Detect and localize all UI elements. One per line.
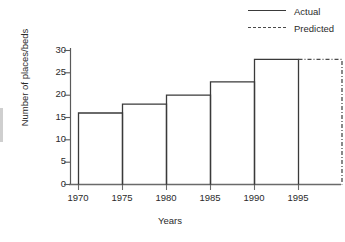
- bar-1990: [255, 59, 299, 184]
- x-tick-marks: [79, 185, 299, 190]
- y-tick-marks: [64, 51, 70, 185]
- chart-plot-area: [0, 0, 345, 242]
- bar-1975: [123, 104, 167, 184]
- bar-1995-predicted: [299, 59, 343, 184]
- bar-1985: [211, 82, 255, 185]
- bar-1970: [79, 113, 123, 185]
- chart-figure: Actual Predicted Number of places/beds 3…: [0, 0, 345, 242]
- bar-1980: [167, 95, 211, 184]
